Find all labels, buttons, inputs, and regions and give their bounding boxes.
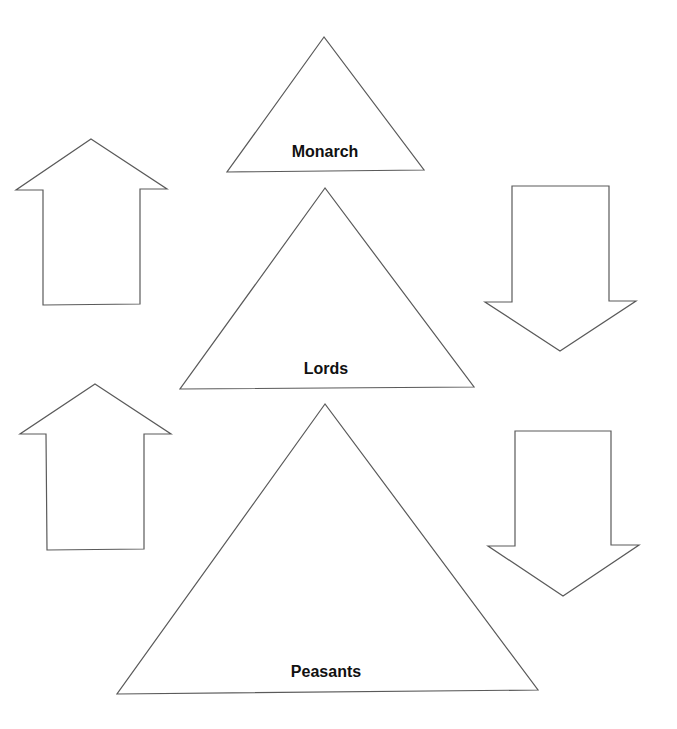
- down-arrow-icon: [488, 431, 639, 596]
- feudal-hierarchy-diagram: Monarch Lords Peasants: [0, 0, 677, 729]
- up-arrow-icon: [20, 384, 171, 550]
- tier-peasants: Peasants: [117, 404, 538, 694]
- peasants-triangle: [117, 404, 538, 694]
- up-arrow-icon: [16, 139, 167, 305]
- tier-lords: Lords: [180, 188, 474, 389]
- monarch-label: Monarch: [292, 143, 359, 160]
- lords-label: Lords: [304, 360, 349, 377]
- peasants-label: Peasants: [291, 663, 361, 680]
- down-arrow-icon: [485, 186, 636, 351]
- tier-monarch: Monarch: [227, 37, 424, 172]
- lords-triangle: [180, 188, 474, 389]
